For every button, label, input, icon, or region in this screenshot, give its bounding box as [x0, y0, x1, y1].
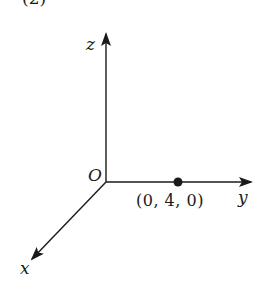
y-axis-label: y: [238, 189, 248, 206]
coordinate-diagram: (2) z O y x (0, 4, 0): [0, 0, 269, 285]
x-axis-label: x: [20, 260, 30, 277]
point-label: (0, 4, 0): [136, 193, 204, 209]
axes-drawing: [0, 0, 269, 285]
panel-label: (2): [22, 0, 46, 7]
x-axis: [32, 182, 106, 259]
point-marker: [174, 178, 183, 187]
z-axis-label: z: [86, 36, 95, 53]
origin-label: O: [88, 167, 102, 184]
